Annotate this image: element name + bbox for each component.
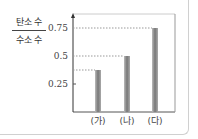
y-tick-label: 0.5 [54, 51, 69, 61]
y-tick-label: 0.75 [48, 23, 68, 33]
bar-na [124, 56, 130, 112]
guide-lines [73, 28, 152, 70]
bar-ga [95, 70, 101, 112]
x-tick-label: (다) [147, 116, 162, 126]
y-ticks: 0.75 0.5 0.25 [48, 23, 76, 89]
bar-chart: 0.75 0.5 0.25 (가) (나) (다) [0, 0, 198, 139]
bar-da [152, 28, 158, 112]
x-tick-label: (가) [90, 116, 105, 126]
x-tick-label: (나) [119, 116, 134, 126]
y-tick-label: 0.25 [48, 79, 68, 89]
